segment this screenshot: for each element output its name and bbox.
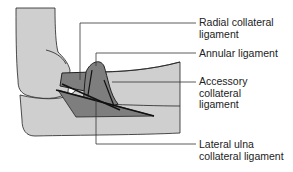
label-accessory-collateral-ligament: Accessory collateral ligament [199, 76, 247, 111]
label-lateral-ulna-collateral-ligament: Lateral ulna collateral ligament [199, 139, 284, 162]
label-radial-collateral-ligament: Radial collateral ligament [199, 17, 274, 40]
leader-annular [96, 53, 196, 66]
label-annular-ligament: Annular ligament [199, 48, 278, 60]
